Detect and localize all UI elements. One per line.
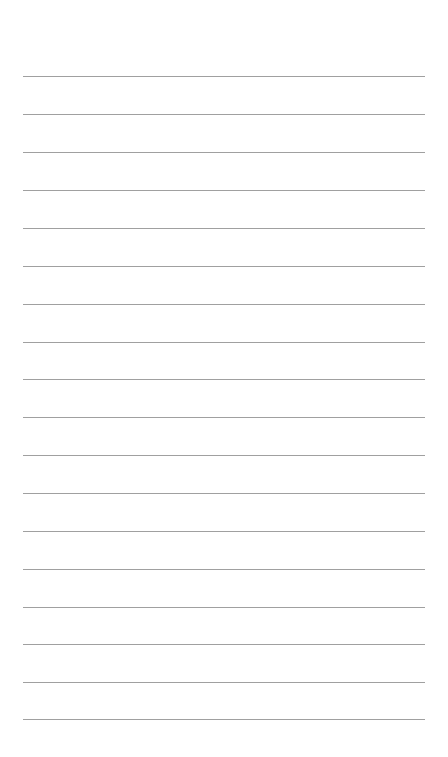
ruled-line [23, 644, 425, 645]
ruled-line [23, 607, 425, 608]
ruled-paper-sheet [0, 0, 448, 757]
ruled-line [23, 569, 425, 570]
ruled-line [23, 682, 425, 683]
ruled-line [23, 114, 425, 115]
ruled-line [23, 379, 425, 380]
ruled-line [23, 455, 425, 456]
ruled-line [23, 266, 425, 267]
ruled-line [23, 304, 425, 305]
ruled-line [23, 531, 425, 532]
ruled-line [23, 342, 425, 343]
ruled-line [23, 228, 425, 229]
ruled-line [23, 493, 425, 494]
ruled-line [23, 152, 425, 153]
ruled-line [23, 417, 425, 418]
ruled-line [23, 76, 425, 77]
ruled-line [23, 719, 425, 720]
ruled-line [23, 190, 425, 191]
